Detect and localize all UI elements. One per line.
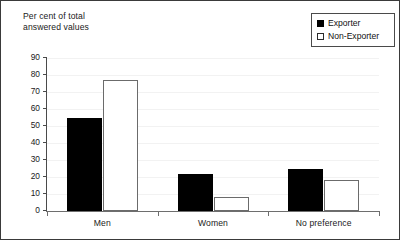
x-category-label: Men [94, 218, 111, 228]
x-axis-line [46, 211, 380, 212]
chart-figure: Per cent of total answered values 908070… [0, 0, 400, 240]
y-tick-label: 10 [31, 188, 40, 198]
y-tick-label: 50 [31, 120, 40, 130]
x-tick-mark [268, 211, 269, 216]
x-category-label: No preference [296, 218, 352, 228]
y-tick-label: 80 [31, 69, 40, 79]
x-tick-mark [47, 211, 48, 216]
bar-exporter-no-preference [288, 169, 323, 212]
y-tick-label: 60 [31, 103, 40, 113]
y-tick-label: 0 [35, 205, 40, 215]
legend-item: Exporter [317, 17, 390, 29]
y-tick-label: 90 [31, 52, 40, 62]
y-tick-label: 40 [31, 137, 40, 147]
bar-non-exporter-no-preference [324, 180, 359, 211]
x-tick-mark [158, 211, 159, 216]
y-tick-label: 20 [31, 171, 40, 181]
plot-area [47, 58, 379, 211]
y-axis-title: Per cent of total answered values [23, 11, 89, 33]
bar-non-exporter-men [103, 80, 138, 211]
x-tick-mark [379, 211, 380, 216]
y-tick-label: 30 [31, 154, 40, 164]
legend-item: Non-Exporter [317, 30, 390, 42]
bar-non-exporter-women [214, 197, 249, 211]
bar-exporter-men [67, 118, 102, 212]
chart-legend: ExporterNon-Exporter [311, 13, 395, 47]
y-tick-label: 70 [31, 86, 40, 96]
legend-label: Exporter [328, 18, 360, 28]
legend-label: Non-Exporter [328, 31, 379, 41]
x-category-label: Women [198, 218, 228, 228]
bar-exporter-women [178, 174, 213, 211]
legend-swatch-icon [317, 20, 324, 27]
legend-swatch-icon [317, 33, 324, 40]
